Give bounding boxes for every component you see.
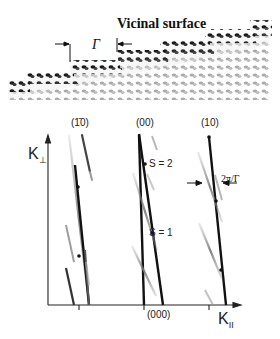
order-label-s2: S = 2: [149, 158, 173, 169]
rod-group-minus-10: [66, 135, 92, 305]
diagram-title: Vicinal surface: [117, 16, 206, 32]
order-label-s1: S = 1: [149, 227, 173, 238]
axis-label-k-perp-sub: ⊥: [39, 155, 47, 165]
rod-label-10: (10): [201, 117, 219, 128]
axis-label-k-parallel-sub: II: [229, 320, 234, 330]
rod-group-10: [198, 135, 226, 305]
axis-label-k-perp: K⊥: [28, 145, 47, 165]
origin-label: (000): [147, 309, 170, 320]
axis-label-k-parallel: KII: [218, 310, 234, 330]
vicinal-surface-diagram: Vicinal surface Γ (1̄0) (00) (10) K⊥ KII…: [0, 0, 280, 339]
terrace-width-symbol: Γ: [92, 37, 100, 53]
axis-label-k-parallel-main: K: [218, 310, 229, 327]
rod-label-00: (00): [136, 117, 154, 128]
rod-label-minus-10: (1̄0): [71, 117, 89, 128]
diagram-canvas: [0, 0, 280, 339]
axis-label-k-perp-main: K: [28, 145, 39, 162]
splitting-label: 2π/Γ: [221, 173, 240, 184]
